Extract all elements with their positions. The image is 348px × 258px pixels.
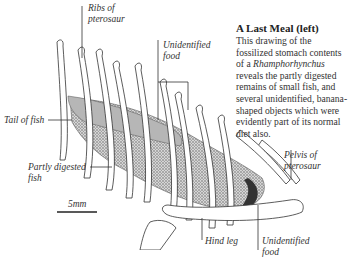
caption-text-end: reveals the partly digested remains of s… (236, 70, 347, 139)
label-digested-line2: fish (28, 173, 86, 184)
caption-title: A Last Meal (left) (236, 22, 348, 35)
label-partly-digested-fish: Partly digested fish (28, 162, 86, 184)
label-ribs-line1: Ribs of (88, 3, 125, 14)
label-food-line1: Unidentified (163, 40, 211, 51)
label-scale: 5mm (68, 199, 86, 210)
label-pelvis: Pelvis of pterosaur (284, 150, 321, 172)
label-tail-of-fish: Tail of fish (4, 115, 44, 126)
label-unidentified-food-bottom: Unidentified food (262, 236, 310, 258)
label-ribs: Ribs of pterosaur (88, 3, 125, 25)
figure-caption: A Last Meal (left) This drawing of the f… (236, 22, 348, 139)
label-pelvis-line2: pterosaur (284, 161, 321, 172)
label-food-line2: food (163, 51, 211, 62)
label-hind-leg: Hind leg (205, 236, 238, 247)
label-digested-line1: Partly digested (28, 162, 86, 173)
caption-body: This drawing of the fossilized stomach c… (236, 35, 348, 139)
label-food-bottom-line2: food (262, 247, 310, 258)
label-ribs-line2: pterosaur (88, 14, 125, 25)
label-food-bottom-line1: Unidentified (262, 236, 310, 247)
caption-genus: Rhamphorhynchus (253, 58, 325, 69)
label-pelvis-line1: Pelvis of (284, 150, 321, 161)
label-unidentified-food-top: Unidentified food (163, 40, 211, 62)
